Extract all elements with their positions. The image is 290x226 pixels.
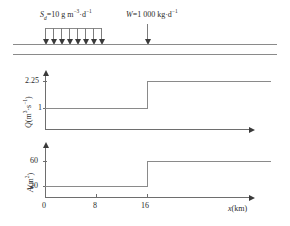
point-source-label: W=1 000 kg·d−1 — [126, 11, 178, 19]
discharge-y-unit-mid: ·s — [24, 105, 33, 111]
discharge-y-unit-close: ) — [24, 96, 33, 99]
area-xtick-8 — [96, 194, 97, 198]
discharge-y-symbol: Q — [24, 122, 33, 128]
discharge-y-axis — [45, 75, 46, 129]
area-step-low-segment — [45, 186, 147, 187]
figure-canvas: Sd=10 g m−3·d−1 W=1 000 kg·d−1 Q(m3·s−1) — [0, 0, 290, 226]
discharge-step-low-segment — [45, 108, 147, 109]
point-source-unit-exp: −1 — [172, 8, 178, 14]
area-xtick-label-0: 0 — [42, 202, 46, 210]
point-source-symbol: W — [126, 10, 133, 19]
distributed-arrow-2 — [53, 28, 54, 40]
area-ytick-label-60: 60 — [30, 157, 38, 165]
discharge-y-axis-label: Q(m3·s−1) — [24, 96, 33, 128]
area-step-high-segment — [147, 161, 271, 162]
discharge-ytick-2.25 — [43, 81, 47, 82]
discharge-ytick-label-1: 1 — [38, 104, 42, 112]
area-ytick-60 — [43, 161, 47, 162]
point-source-unit-main: kg·d — [157, 10, 172, 19]
area-y-unit-exp1: 2 — [24, 176, 30, 179]
point-source-value: 1 000 — [137, 10, 155, 19]
distributed-arrow-1 — [45, 28, 46, 40]
distributed-source-unit-main: g m — [61, 10, 73, 19]
discharge-step-high-segment — [147, 81, 271, 82]
distributed-source-unit-mid: ·d — [79, 10, 86, 19]
discharge-y-unit-exp1: 3 — [22, 111, 28, 114]
distributed-source-label: Sd=10 g m−3·d−1 — [40, 11, 92, 19]
area-x-unit: (km) — [232, 204, 248, 213]
area-step-riser — [147, 161, 148, 187]
area-xtick-label-8: 8 — [93, 202, 97, 210]
area-xtick-label-16: 16 — [141, 202, 149, 210]
discharge-step-riser — [147, 81, 148, 109]
channel-top-line — [13, 44, 277, 45]
area-y-axis — [45, 147, 46, 197]
distributed-arrow-6 — [85, 28, 86, 40]
area-ytick-label-20: 20 — [30, 182, 38, 190]
discharge-x-axis — [45, 129, 250, 130]
channel-bottom-line — [13, 54, 277, 55]
discharge-ytick-label-2.25: 2.25 — [25, 77, 39, 85]
distributed-arrow-3 — [61, 28, 62, 40]
area-y-unit-close: ) — [26, 173, 35, 176]
distributed-arrow-7 — [93, 28, 94, 40]
distributed-arrow-8 — [101, 28, 102, 40]
area-xtick-16 — [147, 194, 148, 198]
area-x-axis-label: x(km) — [228, 204, 247, 213]
distributed-source-unit-exp2: −1 — [86, 8, 92, 14]
distributed-arrow-4 — [69, 28, 70, 40]
distributed-arrow-5 — [77, 28, 78, 40]
point-source-arrow — [147, 24, 148, 40]
discharge-y-unit-main: (m — [24, 113, 33, 122]
area-xtick-0 — [45, 194, 46, 198]
discharge-y-unit-exp2: −1 — [22, 99, 28, 105]
